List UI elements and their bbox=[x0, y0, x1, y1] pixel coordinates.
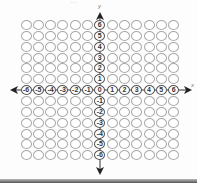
grid-circle bbox=[144, 20, 155, 30]
grid-circle bbox=[131, 118, 142, 128]
x-tick-label: 6 bbox=[168, 85, 179, 95]
grid-circle bbox=[21, 139, 32, 149]
grid-circle bbox=[70, 53, 81, 63]
y-tick-label: 3 bbox=[94, 53, 105, 63]
grid-circle bbox=[168, 107, 179, 117]
grid-circle bbox=[156, 31, 167, 41]
grid-circle bbox=[45, 53, 56, 63]
grid-circle bbox=[119, 118, 130, 128]
grid-circle bbox=[21, 31, 32, 41]
grid-circle bbox=[156, 150, 167, 160]
grid-circle bbox=[57, 53, 68, 63]
grid-circle bbox=[144, 63, 155, 73]
grid-circle bbox=[21, 107, 32, 117]
grid-circle bbox=[21, 74, 32, 84]
grid-circle bbox=[70, 42, 81, 52]
grid-circle bbox=[45, 107, 56, 117]
grid-circle bbox=[144, 96, 155, 106]
grid-circle bbox=[107, 63, 118, 73]
grid-circle bbox=[82, 31, 93, 41]
x-tick-label: -3 bbox=[57, 85, 68, 95]
grid-circle bbox=[57, 129, 68, 139]
grid-circle bbox=[82, 129, 93, 139]
grid-circle bbox=[156, 129, 167, 139]
grid-circle bbox=[33, 31, 44, 41]
grid-circle bbox=[21, 53, 32, 63]
grid-circle bbox=[168, 31, 179, 41]
x-tick-label: 5 bbox=[156, 85, 167, 95]
y-tick-label: 1 bbox=[94, 74, 105, 84]
x-tick-label: 1 bbox=[107, 85, 118, 95]
grid-circle bbox=[82, 20, 93, 30]
grid-circle bbox=[107, 31, 118, 41]
x-tick-label: -4 bbox=[45, 85, 56, 95]
grid-circle bbox=[156, 20, 167, 30]
grid-circle bbox=[70, 107, 81, 117]
grid-circle bbox=[144, 139, 155, 149]
grid-circle bbox=[131, 129, 142, 139]
grid-circle bbox=[82, 118, 93, 128]
grid-circle bbox=[107, 139, 118, 149]
grid-circle bbox=[119, 96, 130, 106]
grid-circle bbox=[57, 118, 68, 128]
grid-circle bbox=[156, 118, 167, 128]
grid-circle bbox=[57, 42, 68, 52]
grid-circle bbox=[33, 20, 44, 30]
x-tick-label: 2 bbox=[119, 85, 130, 95]
y-axis-letter: y bbox=[98, 3, 101, 9]
grid-circle bbox=[119, 107, 130, 117]
grid-circle bbox=[21, 20, 32, 30]
grid-circle bbox=[144, 74, 155, 84]
grid-circle bbox=[119, 31, 130, 41]
grid-circle bbox=[107, 118, 118, 128]
y-tick-label: -5 bbox=[94, 139, 105, 149]
grid-circle bbox=[156, 42, 167, 52]
grid-circle bbox=[33, 129, 44, 139]
grid-circle bbox=[45, 118, 56, 128]
grid-circle bbox=[45, 96, 56, 106]
grid-circle bbox=[70, 118, 81, 128]
y-tick-label: -4 bbox=[94, 129, 105, 139]
y-tick-label: -1 bbox=[94, 96, 105, 106]
grid-circle bbox=[45, 42, 56, 52]
x-tick-label: -1 bbox=[82, 85, 93, 95]
y-tick-label: -3 bbox=[94, 118, 105, 128]
x-tick-label: -2 bbox=[70, 85, 81, 95]
grid-circle bbox=[156, 96, 167, 106]
y-tick-label: 6 bbox=[94, 20, 105, 30]
x-tick-label: 0 bbox=[94, 85, 105, 95]
y-tick-label: -6 bbox=[94, 150, 105, 160]
grid-circle bbox=[144, 129, 155, 139]
y-tick-label: 5 bbox=[94, 31, 105, 41]
grid-circle bbox=[119, 53, 130, 63]
grid-circle bbox=[144, 150, 155, 160]
y-tick-label: 2 bbox=[94, 63, 105, 73]
grid-circle bbox=[144, 31, 155, 41]
coordinate-grid: … y x 654321-6-5-4-3-2-10123456-1-2-3-4-… bbox=[0, 0, 197, 183]
grid-circle bbox=[70, 74, 81, 84]
grid-circle bbox=[156, 53, 167, 63]
grid-circle bbox=[70, 96, 81, 106]
bottom-shadow-band bbox=[0, 179, 197, 183]
grid-circle bbox=[82, 96, 93, 106]
y-tick-label: -2 bbox=[94, 107, 105, 117]
grid-circle bbox=[119, 20, 130, 30]
grid-circle bbox=[21, 118, 32, 128]
grid-circle bbox=[131, 53, 142, 63]
grid-circle bbox=[119, 129, 130, 139]
x-tick-label: 3 bbox=[131, 85, 142, 95]
grid-circle bbox=[33, 96, 44, 106]
grid-circle bbox=[168, 118, 179, 128]
grid-circle bbox=[33, 53, 44, 63]
grid-circle bbox=[82, 42, 93, 52]
grid-circle bbox=[131, 31, 142, 41]
x-tick-label: 4 bbox=[144, 85, 155, 95]
grid-circle bbox=[33, 118, 44, 128]
grid-circle bbox=[107, 53, 118, 63]
grid-circle bbox=[45, 31, 56, 41]
grid-circle bbox=[107, 74, 118, 84]
grid-circle bbox=[119, 42, 130, 52]
grid-circle bbox=[45, 129, 56, 139]
y-tick-label: 4 bbox=[94, 42, 105, 52]
grid-circle bbox=[131, 42, 142, 52]
